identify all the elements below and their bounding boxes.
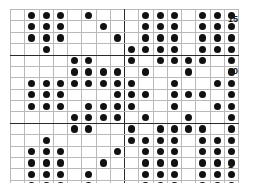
stitch-cell-empty[interactable] (125, 146, 139, 157)
stitch-cell-filled[interactable] (25, 21, 39, 32)
stitch-cell-filled[interactable] (210, 78, 224, 89)
stitch-cell-empty[interactable] (68, 21, 82, 32)
stitch-cell-empty[interactable] (11, 44, 25, 55)
stitch-cell-filled[interactable] (125, 78, 139, 89)
stitch-cell-empty[interactable] (68, 32, 82, 43)
stitch-cell-empty[interactable] (153, 78, 167, 89)
stitch-cell-filled[interactable] (224, 89, 238, 100)
stitch-cell-empty[interactable] (68, 169, 82, 180)
stitch-cell-empty[interactable] (11, 10, 25, 21)
stitch-cell-filled[interactable] (25, 180, 39, 183)
stitch-cell-empty[interactable] (139, 78, 153, 89)
stitch-cell-empty[interactable] (167, 66, 181, 77)
stitch-cell-empty[interactable] (96, 123, 110, 134)
stitch-cell-empty[interactable] (82, 157, 96, 168)
stitch-cell-empty[interactable] (182, 169, 196, 180)
stitch-cell-filled[interactable] (68, 112, 82, 123)
stitch-cell-filled[interactable] (53, 21, 67, 32)
stitch-cell-empty[interactable] (125, 10, 139, 21)
stitch-cell-empty[interactable] (68, 89, 82, 100)
stitch-cell-filled[interactable] (196, 135, 210, 146)
stitch-cell-filled[interactable] (210, 101, 224, 112)
stitch-cell-filled[interactable] (139, 135, 153, 146)
stitch-cell-empty[interactable] (53, 123, 67, 134)
stitch-cell-filled[interactable] (153, 123, 167, 134)
stitch-cell-empty[interactable] (39, 66, 53, 77)
stitch-cell-filled[interactable] (110, 101, 124, 112)
stitch-cell-filled[interactable] (153, 21, 167, 32)
stitch-cell-empty[interactable] (139, 55, 153, 66)
stitch-cell-filled[interactable] (39, 180, 53, 183)
stitch-cell-empty[interactable] (11, 21, 25, 32)
stitch-cell-filled[interactable] (53, 101, 67, 112)
stitch-cell-filled[interactable] (39, 21, 53, 32)
stitch-cell-filled[interactable] (139, 169, 153, 180)
stitch-cell-empty[interactable] (153, 89, 167, 100)
stitch-cell-empty[interactable] (11, 180, 25, 183)
stitch-cell-filled[interactable] (53, 169, 67, 180)
stitch-cell-empty[interactable] (182, 135, 196, 146)
stitch-cell-empty[interactable] (68, 10, 82, 21)
stitch-cell-empty[interactable] (25, 123, 39, 134)
stitch-cell-empty[interactable] (11, 89, 25, 100)
stitch-cell-empty[interactable] (11, 32, 25, 43)
stitch-cell-empty[interactable] (68, 101, 82, 112)
stitch-cell-filled[interactable] (96, 112, 110, 123)
stitch-cell-empty[interactable] (125, 169, 139, 180)
stitch-cell-empty[interactable] (125, 32, 139, 43)
stitch-cell-empty[interactable] (196, 66, 210, 77)
stitch-cell-empty[interactable] (125, 180, 139, 183)
stitch-cell-filled[interactable] (53, 89, 67, 100)
stitch-cell-empty[interactable] (110, 180, 124, 183)
stitch-cell-filled[interactable] (139, 66, 153, 77)
stitch-cell-filled[interactable] (82, 101, 96, 112)
stitch-cell-filled[interactable] (96, 78, 110, 89)
stitch-cell-empty[interactable] (96, 10, 110, 21)
stitch-cell-filled[interactable] (153, 180, 167, 183)
stitch-cell-filled[interactable] (153, 157, 167, 168)
stitch-cell-empty[interactable] (139, 101, 153, 112)
stitch-cell-filled[interactable] (139, 89, 153, 100)
stitch-cell-empty[interactable] (125, 66, 139, 77)
stitch-cell-filled[interactable] (167, 21, 181, 32)
stitch-cell-filled[interactable] (196, 89, 210, 100)
stitch-cell-empty[interactable] (53, 135, 67, 146)
stitch-cell-filled[interactable] (196, 123, 210, 134)
stitch-cell-filled[interactable] (25, 157, 39, 168)
stitch-cell-filled[interactable] (167, 55, 181, 66)
stitch-cell-filled[interactable] (167, 78, 181, 89)
stitch-cell-filled[interactable] (153, 169, 167, 180)
stitch-cell-empty[interactable] (11, 78, 25, 89)
stitch-cell-filled[interactable] (210, 44, 224, 55)
stitch-cell-filled[interactable] (39, 157, 53, 168)
stitch-cell-empty[interactable] (25, 44, 39, 55)
stitch-cell-filled[interactable] (153, 32, 167, 43)
stitch-cell-empty[interactable] (153, 101, 167, 112)
stitch-cell-filled[interactable] (110, 89, 124, 100)
stitch-cell-filled[interactable] (125, 44, 139, 55)
stitch-cell-filled[interactable] (224, 55, 238, 66)
stitch-cell-filled[interactable] (153, 10, 167, 21)
stitch-cell-empty[interactable] (82, 135, 96, 146)
stitch-cell-filled[interactable] (53, 157, 67, 168)
stitch-cell-empty[interactable] (167, 112, 181, 123)
stitch-cell-filled[interactable] (167, 157, 181, 168)
stitch-cell-filled[interactable] (182, 89, 196, 100)
stitch-cell-empty[interactable] (110, 123, 124, 134)
stitch-cell-empty[interactable] (210, 66, 224, 77)
stitch-cell-empty[interactable] (196, 78, 210, 89)
stitch-cell-filled[interactable] (167, 135, 181, 146)
stitch-cell-empty[interactable] (11, 66, 25, 77)
stitch-cell-filled[interactable] (68, 78, 82, 89)
stitch-cell-empty[interactable] (96, 55, 110, 66)
stitch-cell-filled[interactable] (39, 135, 53, 146)
stitch-cell-filled[interactable] (82, 10, 96, 21)
stitch-cell-filled[interactable] (224, 169, 238, 180)
stitch-cell-filled[interactable] (53, 180, 67, 183)
stitch-cell-empty[interactable] (68, 180, 82, 183)
stitch-cell-filled[interactable] (182, 123, 196, 134)
stitch-cell-empty[interactable] (110, 44, 124, 55)
stitch-cell-filled[interactable] (153, 55, 167, 66)
stitch-cell-filled[interactable] (139, 157, 153, 168)
stitch-cell-filled[interactable] (25, 146, 39, 157)
